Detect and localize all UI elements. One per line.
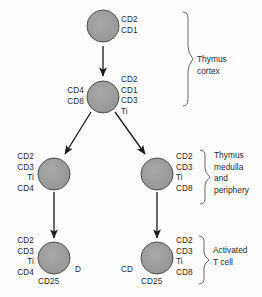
markers-cd4-thymocyte-left: CD2 CD3 Ti CD4 (0, 152, 34, 194)
brace-thymus-medulla (200, 150, 210, 204)
markers-common-thymocyte-left: CD4 CD8 (40, 86, 84, 107)
cell-group (38, 10, 173, 274)
brace-thymus-cortex (183, 12, 193, 106)
group-label-activated-t-cell: Activated T cell (213, 245, 247, 268)
markers-cd4-activated-right: D (75, 265, 81, 276)
markers-cd4-activated-left: CD2 CD3 Ti CD4 (0, 236, 34, 278)
brace-activated-t-cell (199, 236, 209, 284)
markers-cd8-activated-below: CD25 (141, 277, 162, 288)
markers-cd8-activated-right: CD2 CD3 Ti CD8 (176, 236, 193, 278)
cd8-mature-thymocyte (141, 158, 173, 190)
markers-common-thymocyte-right: CD2 CD1 CD3 Ti (121, 75, 138, 117)
cd4-activated-t-cell (38, 242, 70, 274)
diagram-canvas: CD2 CD1 CD2 CD1 CD3 Ti CD4 CD8 CD2 CD3 T… (0, 0, 262, 297)
markers-cd8-activated-left: CD (111, 265, 133, 276)
arrow-common-to-cd8 (115, 112, 145, 154)
cd4-mature-thymocyte (38, 158, 70, 190)
stem-cell (87, 10, 119, 42)
markers-cd4-activated-below: CD25 (38, 277, 59, 288)
cd8-activated-t-cell (141, 242, 173, 274)
group-label-thymus-cortex: Thymus cortex (197, 54, 227, 77)
markers-cd8-thymocyte-right: CD2 CD3 Ti CD8 (176, 152, 193, 194)
arrow-common-to-cd4 (65, 112, 91, 154)
common-thymocyte (87, 81, 119, 113)
group-label-thymus-medulla-periphery: Thymus medulla and periphery (214, 150, 249, 196)
arrow-group (54, 46, 157, 238)
markers-stem-cell-right: CD2 CD1 (121, 15, 138, 36)
